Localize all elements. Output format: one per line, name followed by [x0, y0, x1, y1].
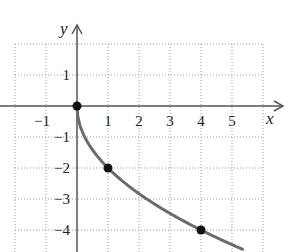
- y-tick-label: −4: [54, 222, 70, 238]
- data-point: [104, 164, 113, 173]
- axes: [0, 25, 283, 252]
- data-point: [197, 226, 206, 235]
- curve-line: [77, 106, 243, 249]
- y-tick-label: 1: [63, 67, 71, 83]
- y-tick-label: −2: [54, 160, 70, 176]
- function-graph: −1123451−1−2−3−4xy: [0, 0, 293, 252]
- x-axis-label: x: [265, 109, 274, 128]
- y-tick-label: −3: [54, 191, 70, 207]
- x-tick-label: 5: [228, 113, 236, 129]
- x-tick-label: 2: [135, 113, 143, 129]
- x-tick-label: 1: [104, 113, 112, 129]
- grid: [15, 44, 263, 252]
- x-tick-label: 3: [166, 113, 174, 129]
- y-axis-label: y: [58, 19, 68, 38]
- x-tick-label: −1: [34, 113, 50, 129]
- y-tick-label: −1: [54, 129, 70, 145]
- data-point: [73, 102, 82, 111]
- x-tick-label: 4: [197, 113, 205, 129]
